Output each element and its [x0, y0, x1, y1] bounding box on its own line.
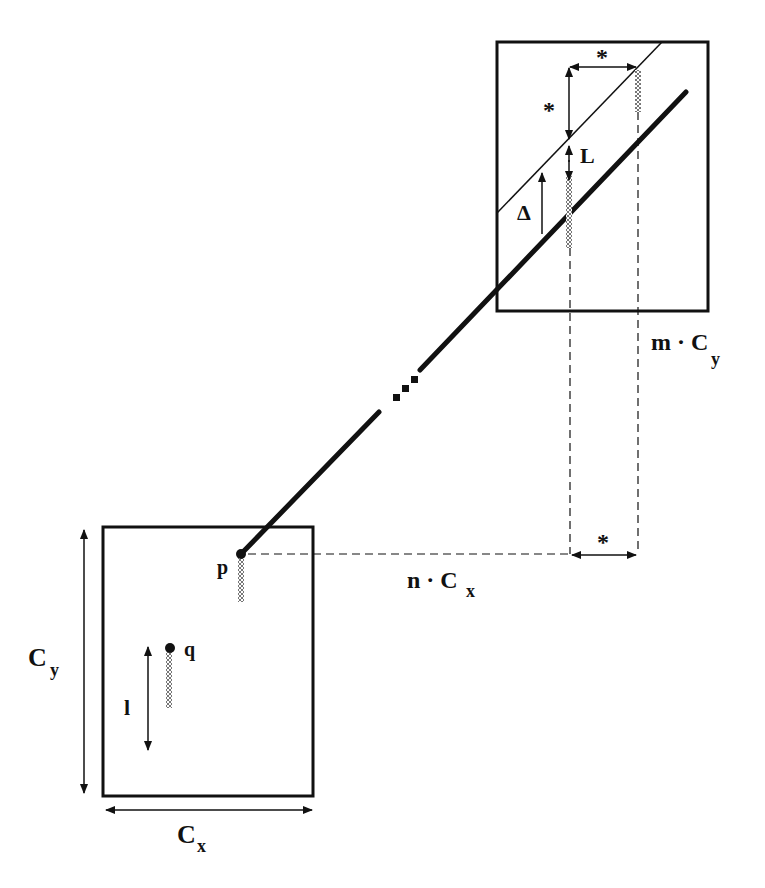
hatch-segment-p: [238, 556, 244, 602]
label-q: q: [184, 638, 195, 661]
label-n-cx: n · C x: [407, 567, 475, 601]
svg-text:C: C: [177, 820, 196, 849]
bottom-cell-box: [103, 527, 313, 796]
diagram-canvas: p q l L Δ * * * C y C x n · C x m · C y: [0, 0, 765, 888]
svg-text:C: C: [28, 643, 47, 672]
svg-text:x: x: [197, 836, 206, 856]
point-p: [236, 549, 246, 559]
label-delta: Δ: [517, 200, 531, 225]
svg-text:m · C: m · C: [651, 329, 708, 355]
label-star-top: *: [596, 44, 608, 70]
main-line: [241, 92, 686, 554]
label-star-left: *: [543, 97, 555, 123]
ellipsis-dots: [393, 376, 418, 401]
label-cy: C y: [28, 643, 59, 680]
label-p: p: [217, 556, 228, 579]
point-q: [165, 643, 175, 653]
label-m-cy: m · C y: [651, 329, 720, 369]
svg-text:x: x: [466, 581, 475, 601]
hatch-segment-L: [566, 176, 572, 248]
label-cx: C x: [177, 820, 206, 856]
hatch-segment-right: [635, 70, 641, 112]
svg-text:y: y: [711, 349, 720, 369]
label-L: L: [580, 143, 595, 168]
label-star-bottom: *: [597, 529, 609, 555]
svg-text:y: y: [50, 660, 59, 680]
label-l: l: [124, 695, 130, 720]
hatch-segment-q: [166, 650, 172, 708]
svg-text:n · C: n · C: [407, 567, 458, 593]
